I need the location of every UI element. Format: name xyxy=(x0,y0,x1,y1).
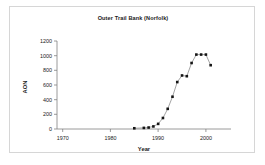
data-point xyxy=(186,75,189,78)
data-point xyxy=(209,64,212,67)
y-tick-label-400: 400 xyxy=(43,97,52,103)
y-axis-title: AON xyxy=(22,81,28,94)
data-point xyxy=(143,127,146,130)
data-point xyxy=(205,53,208,56)
chart-plot: 0 200 400 600 800 1000 1200 1970 1980 19… xyxy=(10,7,256,154)
data-point xyxy=(157,123,160,126)
y-tick-marks xyxy=(54,41,57,129)
data-point xyxy=(166,108,169,111)
data-point xyxy=(176,81,179,84)
data-point xyxy=(195,53,198,56)
data-point xyxy=(200,53,203,56)
y-tick-label-1000: 1000 xyxy=(40,53,52,59)
data-point xyxy=(181,74,184,77)
y-tick-label-600: 600 xyxy=(43,82,52,88)
data-series-line xyxy=(134,55,210,129)
data-point xyxy=(133,127,136,130)
data-point xyxy=(152,125,155,128)
y-tick-label-0: 0 xyxy=(49,126,52,132)
x-tick-label-1980: 1980 xyxy=(104,135,116,141)
data-point xyxy=(190,62,193,65)
x-tick-label-2000: 2000 xyxy=(200,135,212,141)
x-tick-label-1990: 1990 xyxy=(152,135,164,141)
data-point xyxy=(162,117,165,120)
data-point xyxy=(171,95,174,98)
x-tick-label-1970: 1970 xyxy=(57,135,69,141)
x-axis-title: Year xyxy=(138,146,151,152)
data-point xyxy=(147,126,150,129)
chart-frame: Outer Trail Bank (Norfolk) 0 200 400 600… xyxy=(9,6,255,153)
y-tick-label-800: 800 xyxy=(43,67,52,73)
y-tick-label-200: 200 xyxy=(43,111,52,117)
data-series-markers xyxy=(133,53,212,129)
y-tick-label-1200: 1200 xyxy=(40,38,52,44)
